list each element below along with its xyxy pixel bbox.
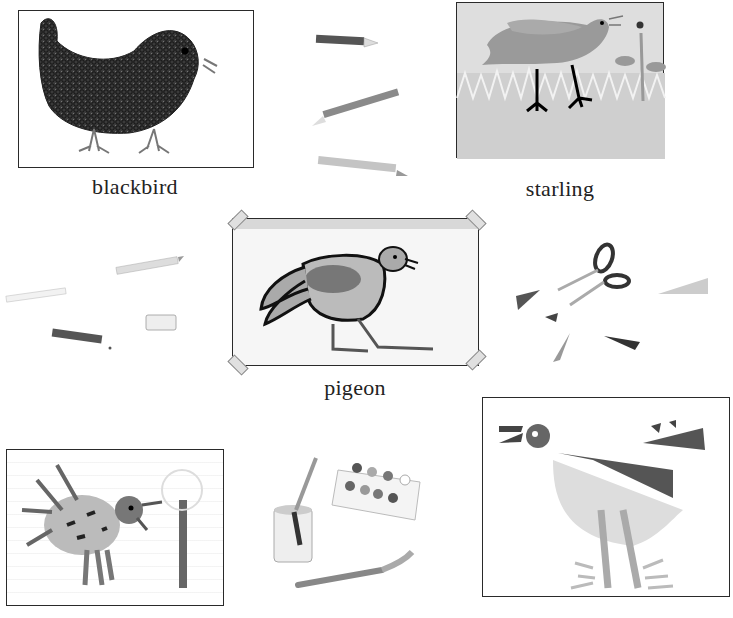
cut-paper-bird-illustration <box>483 398 731 598</box>
paintbrush-icon <box>298 552 412 585</box>
paint-box-icon <box>332 463 420 520</box>
cut-paper-bird-drawing <box>482 397 730 597</box>
paint-jar-icon <box>274 458 316 562</box>
